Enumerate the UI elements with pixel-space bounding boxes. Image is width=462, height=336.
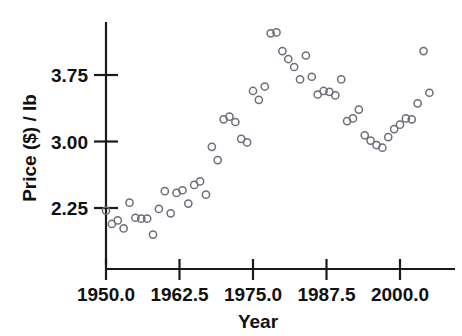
x-axis-title: Year: [238, 311, 279, 332]
data-point: [255, 96, 262, 103]
data-point: [155, 205, 162, 212]
data-point: [161, 188, 168, 195]
data-point: [361, 132, 368, 139]
y-axis-title: Price ($) / lb: [19, 94, 40, 202]
data-point: [302, 52, 309, 59]
data-point: [385, 133, 392, 140]
data-point: [355, 106, 362, 113]
data-point: [120, 225, 127, 232]
data-points: [102, 29, 433, 238]
x-tick-label: 1975.0: [224, 284, 282, 305]
data-point: [249, 87, 256, 94]
data-point: [332, 92, 339, 99]
data-point: [202, 191, 209, 198]
y-tick-label: 3.75: [51, 65, 88, 86]
data-point: [414, 100, 421, 107]
data-point: [261, 83, 268, 90]
data-point: [149, 231, 156, 238]
y-tick-label: 2.25: [51, 198, 88, 219]
data-point: [196, 178, 203, 185]
y-axis-ticks: 2.253.003.75: [51, 65, 118, 219]
data-point: [126, 199, 133, 206]
chart-canvas: 2.253.003.75 1950.01962.51975.01987.5200…: [0, 0, 462, 336]
data-point: [244, 139, 251, 146]
data-point: [308, 73, 315, 80]
data-point: [114, 217, 121, 224]
x-tick-label: 1987.5: [297, 284, 356, 305]
data-point: [396, 121, 403, 128]
data-point: [296, 76, 303, 83]
x-tick-label: 2000.0: [371, 284, 429, 305]
data-point: [279, 47, 286, 54]
data-point: [208, 143, 215, 150]
scatter-chart: 2.253.003.75 1950.01962.51975.01987.5200…: [0, 0, 462, 336]
data-point: [426, 89, 433, 96]
data-point: [420, 47, 427, 54]
x-tick-label: 1962.5: [150, 284, 209, 305]
data-point: [232, 118, 239, 125]
data-point: [285, 55, 292, 62]
data-point: [291, 63, 298, 70]
data-point: [185, 200, 192, 207]
data-point: [167, 210, 174, 217]
x-axis-ticks: 1950.01962.51975.01987.52000.0: [77, 259, 429, 305]
data-point: [338, 76, 345, 83]
y-tick-label: 3.00: [51, 132, 88, 153]
data-point: [214, 157, 221, 164]
x-tick-label: 1950.0: [77, 284, 135, 305]
